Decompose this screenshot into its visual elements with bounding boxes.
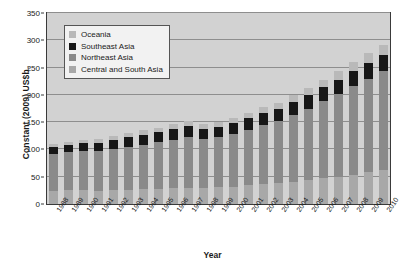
legend-swatch-icon — [69, 43, 76, 50]
bar-segment — [124, 137, 133, 146]
legend-item[interactable]: Northeast Asia — [69, 52, 163, 64]
bar-segment — [289, 115, 298, 182]
x-axis-title: Year — [0, 250, 399, 260]
chart-legend: OceaniaSoutheast AsiaNortheast AsiaCentr… — [64, 25, 170, 79]
bar-1992[interactable] — [109, 136, 118, 204]
bar-2007[interactable] — [334, 71, 343, 204]
bar-segment — [349, 86, 358, 174]
bar-1998[interactable] — [199, 124, 208, 204]
bar-segment — [259, 125, 268, 184]
y-tick-label: 100 — [27, 145, 40, 154]
chart-container: Constant (2009) US$b. 050100150200250300… — [0, 0, 399, 271]
bar-1996[interactable] — [169, 124, 178, 204]
y-axis-tick-labels: 050100150200250300350 — [0, 0, 44, 205]
bar-segment — [379, 71, 388, 170]
bar-segment — [154, 142, 163, 188]
y-tick-mark — [41, 94, 44, 95]
bar-segment — [274, 121, 283, 183]
bar-segment — [244, 118, 253, 129]
bar-segment — [79, 143, 88, 151]
legend-item[interactable]: Southeast Asia — [69, 41, 163, 53]
legend-swatch-icon — [69, 31, 76, 38]
bar-1990[interactable] — [79, 140, 88, 204]
bar-2008[interactable] — [349, 62, 358, 204]
legend-label: Southeast Asia — [81, 42, 134, 51]
bar-segment — [94, 151, 103, 191]
y-tick-label: 150 — [27, 118, 40, 127]
bar-segment — [154, 132, 163, 142]
bar-2000[interactable] — [229, 118, 238, 204]
bar-1999[interactable] — [214, 122, 223, 204]
bar-segment — [334, 71, 343, 79]
bar-1994[interactable] — [139, 130, 148, 204]
bar-segment — [49, 191, 58, 204]
bar-2002[interactable] — [259, 107, 268, 204]
y-tick-mark — [41, 122, 44, 123]
bar-segment — [349, 71, 358, 86]
y-tick-label: 300 — [27, 36, 40, 45]
y-tick-mark — [41, 149, 44, 150]
bar-segment — [334, 94, 343, 176]
y-tick-mark — [41, 40, 44, 41]
bar-segment — [139, 145, 148, 190]
bar-2005[interactable] — [304, 88, 313, 204]
bar-segment — [334, 80, 343, 95]
bar-segment — [124, 147, 133, 190]
bar-segment — [49, 154, 58, 191]
bar-segment — [94, 143, 103, 151]
y-tick-label: 0 — [36, 200, 40, 209]
legend-item[interactable]: Oceania — [69, 29, 163, 41]
bar-segment — [319, 80, 328, 88]
bar-segment — [304, 88, 313, 95]
bar-1991[interactable] — [94, 139, 103, 204]
bar-2009[interactable] — [364, 53, 373, 204]
y-tick-label: 350 — [27, 9, 40, 18]
y-tick-mark — [41, 13, 44, 14]
bar-segment — [304, 95, 313, 109]
bar-segment — [79, 151, 88, 190]
bar-1989[interactable] — [64, 142, 73, 204]
bar-2001[interactable] — [244, 113, 253, 204]
bar-segment — [64, 145, 73, 152]
bar-segment — [199, 129, 208, 139]
bar-2004[interactable] — [289, 95, 298, 204]
y-tick-mark — [41, 67, 44, 68]
bar-segment — [214, 127, 223, 137]
bar-1995[interactable] — [154, 128, 163, 204]
legend-swatch-icon — [69, 66, 76, 73]
bar-segment — [229, 134, 238, 186]
bar-segment — [319, 87, 328, 101]
bar-segment — [64, 152, 73, 190]
bar-2003[interactable] — [274, 103, 283, 204]
bar-segment — [379, 45, 388, 55]
bar-segment — [364, 79, 373, 173]
y-tick-label: 50 — [31, 172, 40, 181]
bar-segment — [259, 113, 268, 125]
bar-1997[interactable] — [184, 121, 193, 204]
bar-1988[interactable] — [49, 144, 58, 204]
bar-segment — [379, 55, 388, 71]
bar-segment — [109, 149, 118, 190]
bar-segment — [184, 137, 193, 187]
bar-segment — [244, 130, 253, 186]
bar-segment — [304, 109, 313, 180]
bar-segment — [364, 53, 373, 62]
legend-label: Northeast Asia — [81, 53, 133, 62]
y-tick-mark — [41, 204, 44, 205]
bar-segment — [229, 123, 238, 134]
bar-segment — [349, 62, 358, 71]
bar-segment — [109, 140, 118, 149]
bar-segment — [139, 135, 148, 145]
bar-2006[interactable] — [319, 80, 328, 204]
bar-2010[interactable] — [379, 45, 388, 204]
bar-segment — [319, 101, 328, 178]
y-tick-label: 250 — [27, 63, 40, 72]
bar-segment — [274, 109, 283, 122]
bar-1993[interactable] — [124, 133, 133, 204]
bar-segment — [169, 129, 178, 140]
bar-segment — [364, 63, 373, 79]
legend-item[interactable]: Central and South Asia — [69, 64, 163, 76]
bar-segment — [199, 139, 208, 188]
bar-segment — [184, 126, 193, 137]
y-tick-mark — [41, 176, 44, 177]
